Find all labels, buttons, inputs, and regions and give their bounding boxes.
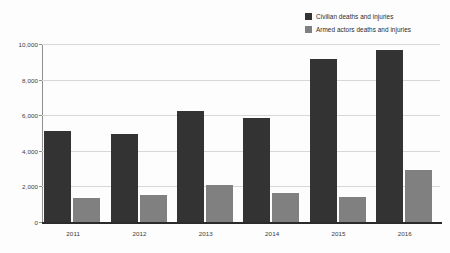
- legend-swatch-icon: [305, 26, 312, 33]
- y-tick-label: 10,000: [0, 41, 38, 48]
- bar-2015-civilian: [310, 59, 337, 222]
- legend-item-civilian: Civilian deaths and injuries: [305, 11, 450, 22]
- bar-2012-armed-actors: [140, 195, 167, 222]
- bar-2015-armed-actors: [339, 197, 366, 222]
- gridline: [42, 44, 440, 45]
- y-tick-label: 2,000: [0, 183, 38, 190]
- bar-2012-civilian: [111, 134, 138, 222]
- bar-2014-civilian: [243, 118, 270, 222]
- y-tick-label: 6,000: [0, 112, 38, 119]
- gridline: [42, 222, 440, 223]
- x-tick-label-2013: 2013: [199, 230, 213, 237]
- legend-swatch-icon: [305, 13, 312, 20]
- bar-2013-armed-actors: [206, 185, 233, 222]
- y-tick-label: 8,000: [0, 76, 38, 83]
- x-tick-label-2016: 2016: [398, 230, 412, 237]
- legend-item-armed-actors: Armed actors deaths and injuries: [305, 24, 450, 35]
- legend-label-armed-actors: Armed actors deaths and injuries: [316, 26, 411, 33]
- y-tick-label: 0: [0, 219, 38, 226]
- x-tick-label-2015: 2015: [331, 230, 345, 237]
- x-tick-label-2014: 2014: [265, 230, 279, 237]
- bar-2014-armed-actors: [272, 193, 299, 222]
- bar-chart: Civilian deaths and injuries Armed actor…: [0, 0, 450, 253]
- x-tick-label-2012: 2012: [132, 230, 146, 237]
- x-tick-label-2011: 2011: [66, 230, 80, 237]
- bar-2013-civilian: [177, 111, 204, 222]
- bar-2011-civilian: [44, 131, 71, 222]
- bar-2016-civilian: [376, 50, 403, 222]
- chart-legend: Civilian deaths and injuries Armed actor…: [305, 11, 450, 37]
- legend-label-civilian: Civilian deaths and injuries: [316, 13, 393, 20]
- plot-area: [42, 44, 440, 222]
- bar-2011-armed-actors: [73, 198, 100, 222]
- y-tick-label: 4,000: [0, 147, 38, 154]
- bar-2016-armed-actors: [405, 170, 432, 222]
